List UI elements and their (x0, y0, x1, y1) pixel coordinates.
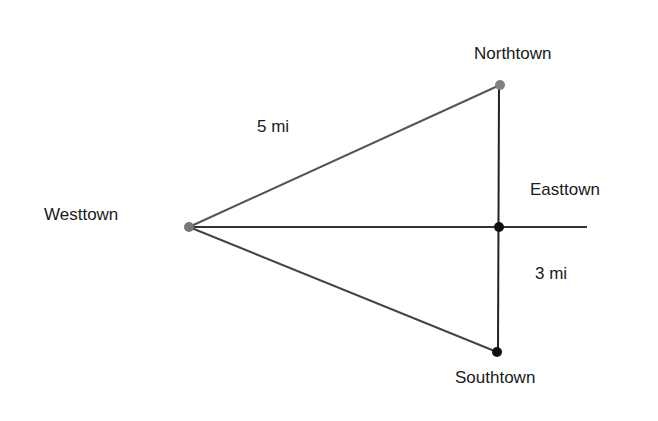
distance-label-east-south: 3 mi (535, 265, 567, 282)
southtown-point (492, 347, 502, 357)
label-northtown: Northtown (474, 45, 551, 62)
label-southtown: Southtown (455, 369, 535, 386)
road-north-south (498, 85, 499, 352)
easttown-point (494, 222, 504, 232)
label-easttown: Easttown (530, 181, 600, 198)
northtown-point (495, 80, 505, 90)
road-west-north (189, 85, 500, 227)
westtown-point (184, 222, 194, 232)
distance-label-west-north: 5 mi (257, 118, 289, 135)
road-west-south (189, 227, 497, 352)
label-westtown: Westtown (44, 206, 118, 223)
